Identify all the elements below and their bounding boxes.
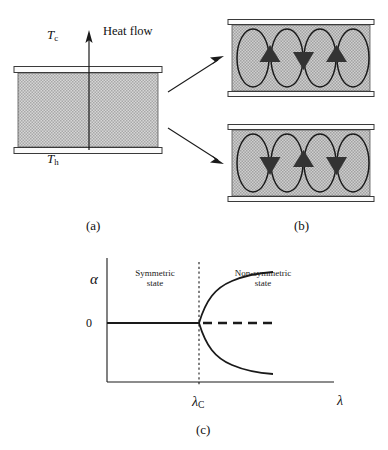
figure-root: Tc Th Heat flow (a) (b) (c) α 0 λC λ Sym… (0, 0, 388, 450)
panel-b-top-convection-cell (228, 20, 374, 97)
top-cell-upper-plate (228, 20, 374, 25)
heat-flow-label: Heat flow (103, 24, 153, 38)
figure-canvas (0, 0, 388, 450)
nonsymmetric-state-label: Non-symmetric state (216, 268, 310, 288)
symmetric-state-label: Symmetric state (116, 268, 194, 288)
caption-panel-a: (a) (86, 219, 100, 234)
panel-a-fluid-layer (14, 30, 162, 154)
lower-stable-branch (199, 323, 273, 374)
bottom-cell-lower-plate (228, 197, 374, 202)
critical-lambda-label: λC (192, 394, 204, 411)
cold-plate (14, 67, 162, 73)
y-axis-label: α (90, 271, 98, 288)
symmetric-state-line2: state (116, 278, 194, 288)
caption-panel-c: (c) (196, 423, 210, 438)
y-zero-tick-label: 0 (86, 317, 92, 330)
nonsymmetric-state-line1: Non-symmetric (216, 268, 310, 278)
cold-temperature-label: Tc (47, 28, 58, 44)
nonsymmetric-state-line2: state (216, 278, 310, 288)
hot-plate (14, 148, 162, 154)
caption-panel-b: (b) (294, 219, 309, 234)
connector-arrow-lower (168, 128, 224, 164)
symmetric-state-line1: Symmetric (116, 268, 194, 278)
x-axis-label: λ (337, 393, 343, 409)
fluid-region (18, 73, 158, 147)
hot-temperature-label: Th (47, 152, 59, 168)
bottom-cell-upper-plate (228, 125, 374, 130)
top-cell-lower-plate (228, 92, 374, 97)
connector-arrow-upper (168, 56, 224, 92)
panel-b-bottom-convection-cell (228, 125, 374, 202)
